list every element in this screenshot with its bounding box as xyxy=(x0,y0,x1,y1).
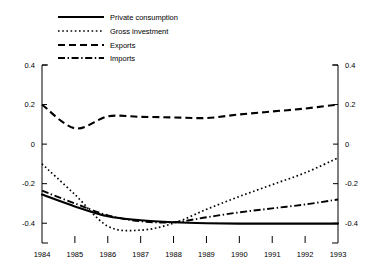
y-axis-label-left-0: 0 xyxy=(31,140,35,149)
chart-legend: Private consumption Gross investment Exp… xyxy=(58,13,178,63)
x-axis-label-1987: 1987 xyxy=(132,250,149,259)
plot-frame xyxy=(42,65,338,243)
legend-label-exports: Exports xyxy=(110,41,136,50)
series-line-imports xyxy=(42,191,338,223)
y-axis-label-right-0.2: 0.2 xyxy=(345,100,355,109)
x-axis-label-1984: 1984 xyxy=(34,250,51,259)
y-axis-label-left--0.2: -0.2 xyxy=(22,179,35,188)
x-axis-label-1989: 1989 xyxy=(198,250,215,259)
y-axis-label-right--0.4: -0.4 xyxy=(345,219,358,228)
right-axis-spine xyxy=(332,65,338,243)
y-axis-ticks-left xyxy=(42,65,47,223)
x-axis-labels: 1984198519861987198819891990199119921993 xyxy=(34,250,347,259)
y-axis-label-left-0.4: 0.4 xyxy=(25,61,35,70)
y-axis-labels-left: 0.40.20-0.2-0.4 xyxy=(22,61,35,228)
y-axis-label-right-0.4: 0.4 xyxy=(345,61,355,70)
legend-label-imports: Imports xyxy=(110,54,135,63)
x-axis-ticks xyxy=(75,236,305,243)
x-axis-label-1990: 1990 xyxy=(231,250,248,259)
line-chart-figure: Private consumption Gross investment Exp… xyxy=(0,0,380,278)
y-axis-label-right--0.2: -0.2 xyxy=(345,179,358,188)
x-axis-label-1992: 1992 xyxy=(297,250,314,259)
series-line-exports xyxy=(42,105,338,129)
x-axis-label-1986: 1986 xyxy=(99,250,116,259)
x-axis-label-1993: 1993 xyxy=(330,250,347,259)
legend-label-private-consumption: Private consumption xyxy=(110,13,178,22)
y-axis-label-right-0: 0 xyxy=(345,140,349,149)
legend-label-gross-investment: Gross investment xyxy=(110,27,169,36)
y-axis-label-left-0.2: 0.2 xyxy=(25,100,35,109)
y-axis-label-left--0.4: -0.4 xyxy=(22,219,35,228)
y-axis-labels-right: 0.40.20-0.2-0.4 xyxy=(345,61,358,228)
x-axis-label-1988: 1988 xyxy=(165,250,182,259)
x-axis-label-1991: 1991 xyxy=(264,250,281,259)
left-axis-spine xyxy=(42,65,48,243)
x-axis-label-1985: 1985 xyxy=(67,250,84,259)
series-layer xyxy=(42,105,338,231)
